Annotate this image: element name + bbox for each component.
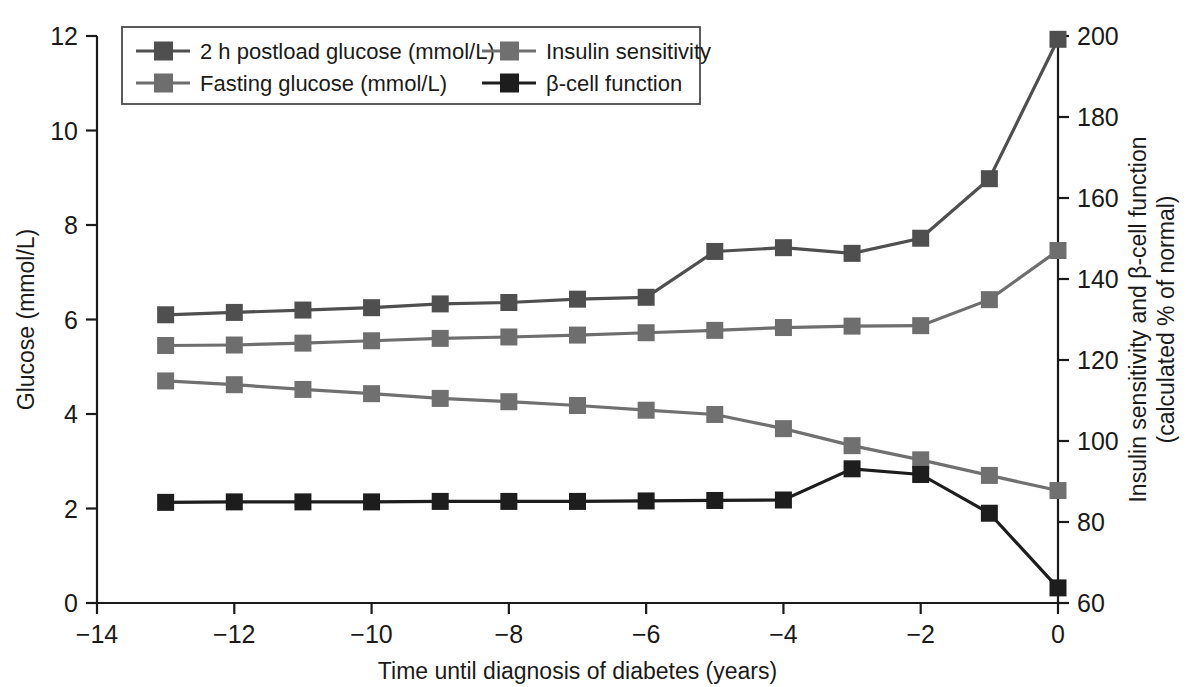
legend-item-3[interactable]: β-cell function (482, 71, 682, 96)
data-point-s1-i6 (569, 327, 586, 344)
data-point-s2-i13 (1050, 482, 1067, 499)
data-point-s0-i5 (500, 294, 517, 311)
data-point-s3-i4 (432, 493, 449, 510)
data-point-s0-i6 (569, 291, 586, 308)
y-tick-label-right-100: 100 (1077, 427, 1119, 455)
data-point-s3-i9 (775, 492, 792, 509)
data-point-s2-i10 (844, 437, 861, 454)
x-axis-title: Time until diagnosis of diabetes (years) (378, 658, 777, 684)
data-point-s3-i12 (981, 505, 998, 522)
data-point-s2-i0 (157, 372, 174, 389)
y-tick-label-right-120: 120 (1077, 346, 1119, 374)
data-point-s0-i0 (157, 306, 174, 323)
y-axis-title-left: Glucose (mmol/L) (13, 229, 39, 410)
y-tick-label-left-2: 2 (64, 495, 78, 523)
data-point-s1-i7 (638, 324, 655, 341)
data-point-s0-i12 (981, 170, 998, 187)
y-tick-label-left-0: 0 (64, 589, 78, 617)
y-tick-label-right-60: 60 (1077, 589, 1105, 617)
data-point-s2-i4 (432, 390, 449, 407)
data-point-s2-i1 (226, 376, 243, 393)
x-tick-label-3: −8 (495, 620, 524, 648)
data-point-s1-i4 (432, 330, 449, 347)
data-point-s0-i4 (432, 295, 449, 312)
x-tick-label-4: −6 (632, 620, 661, 648)
legend-marker-0 (154, 42, 173, 61)
chart-svg: 0246810126080100120140160180200−14−12−10… (0, 0, 1188, 687)
data-point-s2-i5 (500, 393, 517, 410)
series-group (157, 31, 1066, 597)
x-tick-label-0: −14 (76, 620, 119, 648)
series-line-3 (166, 469, 1058, 588)
axis-titles-group: Time until diagnosis of diabetes (years)… (13, 136, 1179, 684)
chart-container: 0246810126080100120140160180200−14−12−10… (0, 0, 1188, 687)
y-tick-label-left-8: 8 (64, 211, 78, 239)
y-tick-label-left-4: 4 (64, 400, 78, 428)
data-point-s3-i1 (226, 493, 243, 510)
y-tick-label-left-6: 6 (64, 306, 78, 334)
data-point-s0-i9 (775, 239, 792, 256)
data-point-s0-i2 (294, 302, 311, 319)
data-point-s1-i2 (294, 335, 311, 352)
data-point-s0-i8 (706, 243, 723, 260)
data-point-s0-i3 (363, 299, 380, 316)
data-point-s1-i9 (775, 319, 792, 336)
data-point-s2-i3 (363, 385, 380, 402)
data-point-s2-i2 (294, 381, 311, 398)
legend-label-0: 2 h postload glucose (mmol/L) (200, 39, 495, 64)
y-tick-label-right-160: 160 (1077, 184, 1119, 212)
legend-marker-2 (500, 42, 519, 61)
data-point-s3-i3 (363, 493, 380, 510)
x-tick-label-6: −2 (906, 620, 935, 648)
data-point-s1-i0 (157, 337, 174, 354)
data-point-s1-i8 (706, 322, 723, 339)
data-point-s3-i8 (706, 492, 723, 509)
data-point-s1-i11 (912, 317, 929, 334)
data-point-s2-i11 (912, 451, 929, 468)
x-tick-label-2: −10 (350, 620, 392, 648)
data-point-s3-i11 (912, 466, 929, 483)
data-point-s2-i7 (638, 402, 655, 419)
legend-label-1: Fasting glucose (mmol/L) (200, 71, 447, 96)
data-point-s0-i11 (912, 230, 929, 247)
data-point-s0-i10 (844, 245, 861, 262)
data-point-s3-i6 (569, 493, 586, 510)
data-point-s3-i13 (1050, 579, 1067, 596)
legend-marker-3 (500, 74, 519, 93)
x-tick-label-5: −4 (769, 620, 798, 648)
data-point-s2-i8 (706, 406, 723, 423)
data-point-s0-i7 (638, 289, 655, 306)
chart-legend: 2 h postload glucose (mmol/L)Fasting glu… (122, 27, 711, 104)
x-tick-label-7: 0 (1051, 620, 1065, 648)
data-point-s2-i6 (569, 397, 586, 414)
y-tick-label-left-12: 12 (50, 22, 78, 50)
legend-label-2: Insulin sensitivity (546, 39, 711, 64)
data-point-s1-i10 (844, 318, 861, 335)
legend-marker-1 (154, 74, 173, 93)
data-point-s1-i12 (981, 291, 998, 308)
y-axis-title-right-line2: (calculated % of normal) (1153, 196, 1179, 444)
data-point-s0-i1 (226, 304, 243, 321)
y-tick-label-left-10: 10 (50, 117, 78, 145)
y-tick-label-right-140: 140 (1077, 265, 1119, 293)
legend-label-3: β-cell function (546, 71, 682, 96)
data-point-s1-i3 (363, 332, 380, 349)
data-point-s1-i13 (1050, 242, 1067, 259)
data-point-s0-i13 (1050, 31, 1067, 48)
x-tick-label-1: −12 (213, 620, 255, 648)
data-point-s3-i0 (157, 494, 174, 511)
data-point-s3-i2 (294, 493, 311, 510)
y-tick-label-right-200: 200 (1077, 22, 1119, 50)
legend-item-2[interactable]: Insulin sensitivity (482, 39, 711, 64)
y-tick-label-right-180: 180 (1077, 103, 1119, 131)
data-point-s3-i5 (500, 493, 517, 510)
y-axis-title-right-line1: Insulin sensitivity and β-cell function (1125, 136, 1151, 502)
data-point-s2-i12 (981, 467, 998, 484)
data-point-s1-i1 (226, 337, 243, 354)
data-point-s1-i5 (500, 328, 517, 345)
data-point-s2-i9 (775, 420, 792, 437)
data-point-s3-i7 (638, 492, 655, 509)
y-tick-label-right-80: 80 (1077, 508, 1105, 536)
data-point-s3-i10 (844, 460, 861, 477)
